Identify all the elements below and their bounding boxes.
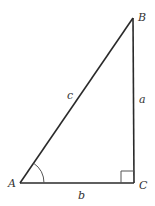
vertex-label-C: C (139, 179, 148, 192)
side-label-a: a (139, 93, 146, 106)
right-angle-marker-C (121, 171, 134, 183)
right-triangle-diagram: A B C a b c (0, 0, 155, 206)
side-a (133, 18, 134, 183)
side-c (20, 18, 133, 183)
side-label-b: b (78, 189, 85, 202)
vertex-label-A: A (7, 177, 16, 190)
side-label-c: c (67, 89, 73, 102)
vertex-label-B: B (137, 11, 146, 24)
angle-arc-A (34, 163, 44, 183)
